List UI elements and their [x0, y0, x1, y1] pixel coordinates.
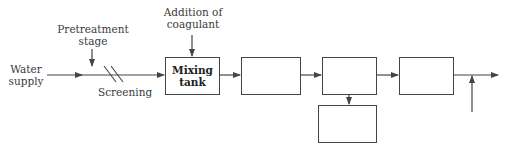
screening-label: Screening [98, 86, 150, 98]
coagulant-label: Addition of coagulant [160, 6, 226, 30]
process-box-4 [399, 57, 454, 95]
coagulant-label-line1: Addition of [160, 6, 226, 18]
pretreatment-label-line2: stage [57, 35, 129, 47]
process-box-2 [241, 57, 301, 95]
mixing-tank-label-line1: Mixing [172, 64, 213, 76]
screening-symbol [104, 66, 123, 82]
water-supply-label: Water supply [4, 63, 48, 87]
process-box-3 [322, 57, 377, 95]
mixing-tank-label-line2: tank [172, 76, 213, 88]
water-supply-label-line2: supply [4, 75, 48, 87]
pretreatment-label: Pretreatment stage [57, 23, 129, 47]
mixing-tank-box: Mixing tank [165, 57, 220, 95]
process-box-5-below [318, 105, 377, 143]
pretreatment-label-line1: Pretreatment [57, 23, 129, 35]
water-supply-label-line1: Water [4, 63, 48, 75]
coagulant-label-line2: coagulant [160, 18, 226, 30]
mixing-tank-label: Mixing tank [172, 64, 213, 88]
